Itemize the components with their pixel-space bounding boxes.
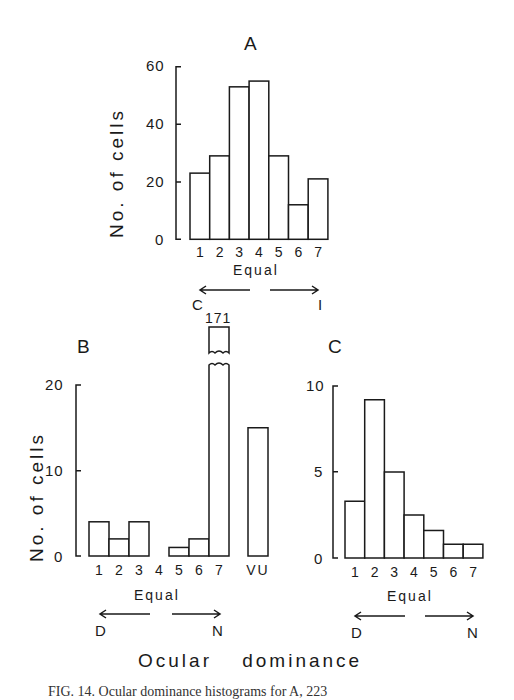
panel-c-bars — [345, 400, 483, 558]
panel-c-bar — [404, 515, 424, 558]
panel-b-break-value: 171 — [205, 310, 231, 326]
panel-a-bar — [229, 87, 249, 239]
panel-c-equal-label: Equal — [387, 588, 433, 604]
panel-a-right-arrow — [270, 286, 318, 294]
panel-c-category-label: 2 — [365, 564, 385, 580]
panel-b-broken-bar-lower — [209, 363, 229, 556]
panel-b-bar — [109, 539, 129, 556]
panel-c-bar — [365, 400, 385, 558]
panel-c-bar — [444, 544, 464, 558]
panel-b-category-label: 6 — [189, 562, 209, 578]
panel-c-category-label: 7 — [463, 564, 483, 580]
panel-a-bar — [289, 205, 309, 240]
panel-a-bar — [249, 81, 269, 239]
panel-a-category-label: 6 — [288, 244, 308, 260]
panel-c-category-label: 5 — [424, 564, 444, 580]
panel-b-left-arrow — [100, 610, 150, 618]
panel-a-bar — [269, 156, 289, 239]
panel-c-category-label: 4 — [404, 564, 424, 580]
panel-b-bar — [189, 539, 209, 556]
panel-b-right-label: N — [212, 622, 223, 639]
panel-b-ylabel: No. of cells — [26, 432, 48, 562]
panel-a-right-label: I — [318, 296, 322, 313]
panel-c-yaxis — [333, 386, 338, 558]
panel-b-bar — [248, 428, 268, 556]
panel-b-broken-bar-upper — [209, 327, 229, 353]
panel-c-right-label: N — [467, 624, 478, 641]
panel-c-ytick-5: 5 — [314, 463, 323, 480]
panel-c-title: C — [328, 336, 342, 358]
panel-c-bar — [424, 530, 444, 558]
panel-a-bars — [190, 81, 328, 239]
panel-b-ytick-20: 20 — [45, 376, 64, 393]
panel-b-left-label: D — [95, 622, 106, 639]
panel-c-bar — [345, 501, 365, 558]
panel-c-ytick-10: 10 — [306, 377, 325, 394]
panel-b-ytick-0: 0 — [54, 548, 63, 565]
panel-b-ytick-10: 10 — [45, 462, 64, 479]
panel-c-category-label: 1 — [345, 564, 365, 580]
panel-b-category-label: 2 — [109, 562, 129, 578]
panel-b-right-arrow — [172, 610, 220, 618]
panel-a-category-label: 2 — [210, 244, 230, 260]
panel-a-bar — [190, 173, 210, 239]
panel-c-bar — [463, 544, 483, 558]
panel-a-bar — [210, 156, 230, 239]
panel-a-category-label: 7 — [308, 244, 328, 260]
panel-a-category-label: 5 — [269, 244, 289, 260]
panel-a-category-label: 1 — [190, 244, 210, 260]
panel-b-bar — [89, 522, 109, 556]
panel-b-category-label-vu: VU — [244, 562, 272, 578]
figure-caption: FIG. 14. Ocular dominance histograms for… — [48, 684, 327, 700]
panel-c-right-arrow — [425, 612, 473, 620]
panel-b-bars — [89, 327, 268, 556]
panel-c-bar — [384, 472, 404, 558]
panel-a-left-label: C — [192, 296, 203, 313]
panel-b-category-label: 1 — [89, 562, 109, 578]
panel-b-category-label: 7 — [209, 562, 229, 578]
panel-b-title: B — [77, 336, 90, 358]
panel-a-left-arrow — [200, 286, 250, 294]
panel-c-left-label: D — [351, 624, 362, 641]
panel-c-left-arrow — [355, 612, 405, 620]
panel-a-category-label: 3 — [229, 244, 249, 260]
panel-c-category-label: 6 — [443, 564, 463, 580]
panel-a-category-label: 4 — [249, 244, 269, 260]
panel-a-yaxis — [176, 67, 181, 240]
panel-c-category-label: 3 — [384, 564, 404, 580]
panel-a-bar — [308, 179, 328, 239]
panel-b-yaxis — [76, 385, 81, 556]
panel-b-bar — [129, 522, 149, 556]
panel-b-category-label: 5 — [169, 562, 189, 578]
x-axis-label: Ocular dominance — [138, 650, 362, 672]
panel-b-equal-label: Equal — [134, 587, 180, 603]
panel-b-category-label: 3 — [129, 562, 149, 578]
panel-b-category-label: 4 — [149, 562, 169, 578]
panel-c-ytick-0: 0 — [314, 550, 323, 567]
panel-b-bar — [169, 547, 189, 556]
panel-a-equal-label: Equal — [233, 262, 279, 278]
